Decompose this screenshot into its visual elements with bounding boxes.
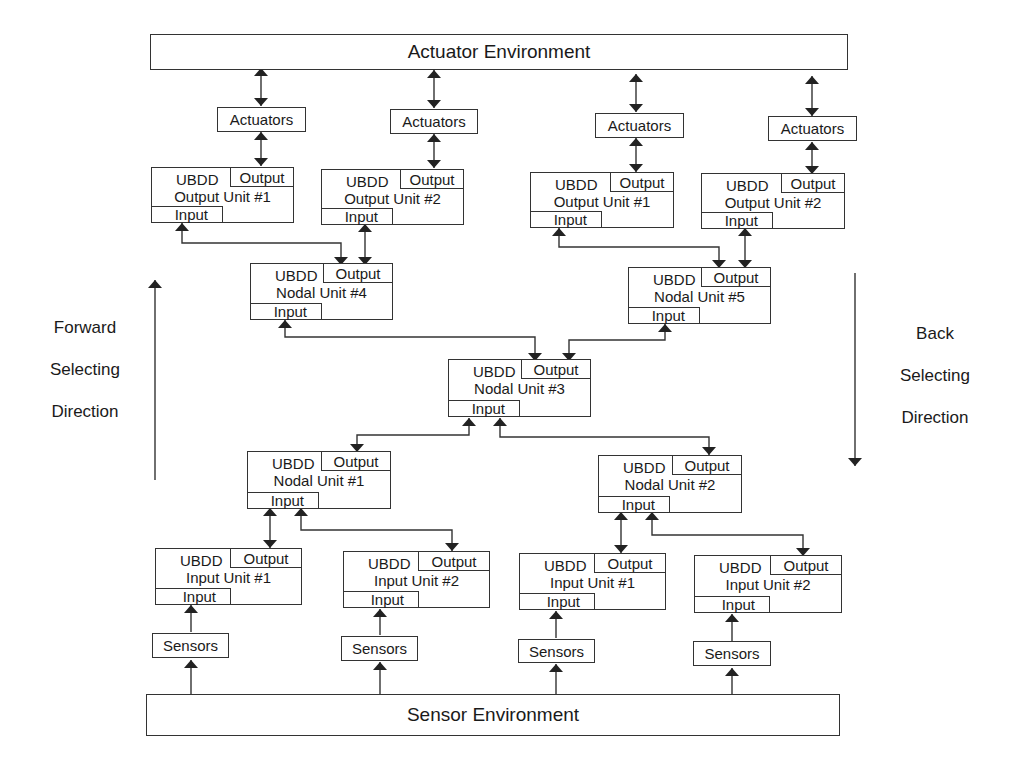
- ubdd-label: UBDD: [653, 271, 696, 289]
- output-port: Output: [672, 455, 742, 475]
- unit-name: Input Unit #2: [695, 576, 841, 594]
- output-unit-1-right: UBDD Output Output Unit #1 Input: [530, 172, 674, 228]
- output-port: Output: [323, 263, 393, 283]
- ubdd-label: UBDD: [623, 459, 666, 477]
- ubdd-label: UBDD: [368, 555, 411, 573]
- sensors-box-2: Sensors: [341, 636, 418, 661]
- input-port: Input: [250, 303, 322, 320]
- actuator-environment-label: Actuator Environment: [408, 41, 591, 63]
- unit-name: Output Unit #1: [531, 193, 673, 211]
- unit-name: Nodal Unit #4: [251, 284, 392, 302]
- forward-word: Forward: [30, 307, 140, 349]
- output-unit-1-left: UBDD Output Output Unit #1 Input: [151, 167, 294, 223]
- ubdd-label: UBDD: [272, 455, 315, 473]
- output-port: Output: [521, 359, 591, 379]
- input-port: Input: [701, 212, 773, 229]
- back-word: Back: [880, 313, 990, 355]
- unit-name: Output Unit #1: [152, 188, 293, 206]
- unit-name: Output Unit #2: [702, 194, 844, 212]
- actuators-label: Actuators: [781, 120, 844, 137]
- ubdd-label: UBDD: [275, 267, 318, 285]
- output-unit-2-left: UBDD Output Output Unit #2 Input: [321, 169, 464, 225]
- actuators-box-1: Actuators: [217, 107, 306, 132]
- sensor-environment-label: Sensor Environment: [407, 704, 579, 726]
- output-port: Output: [781, 173, 845, 193]
- sensors-box-4: Sensors: [693, 641, 771, 666]
- input-port: Input: [694, 596, 770, 613]
- nodal-unit-2: UBDD Output Nodal Unit #2 Input: [598, 455, 742, 513]
- output-port: Output: [594, 553, 666, 573]
- input-port: Input: [519, 593, 595, 610]
- actuators-label: Actuators: [608, 117, 671, 134]
- input-port: Input: [628, 307, 700, 324]
- output-port: Output: [701, 267, 771, 287]
- input-port: Input: [530, 211, 602, 228]
- input-port: Input: [151, 206, 223, 223]
- input-port: Input: [343, 591, 419, 608]
- output-port: Output: [230, 548, 302, 568]
- unit-name: Input Unit #1: [520, 574, 665, 592]
- output-port: Output: [400, 169, 464, 189]
- input-port: Input: [598, 496, 670, 513]
- input-unit-1-right: UBDD Output Input Unit #1 Input: [519, 553, 666, 610]
- forward-selecting-direction-label: Forward Selecting Direction: [30, 307, 140, 433]
- ubdd-label: UBDD: [473, 363, 516, 381]
- input-port: Input: [448, 400, 520, 417]
- actuators-box-3: Actuators: [595, 113, 684, 138]
- ubdd-label: UBDD: [180, 552, 223, 570]
- unit-name: Output Unit #2: [322, 190, 463, 208]
- unit-name: Nodal Unit #5: [629, 288, 770, 306]
- unit-name: Nodal Unit #1: [248, 472, 390, 490]
- sensors-box-1: Sensors: [152, 633, 229, 658]
- back-selecting-direction-label: Back Selecting Direction: [880, 313, 990, 439]
- actuators-box-4: Actuators: [768, 116, 857, 141]
- output-port: Output: [321, 451, 391, 471]
- actuators-box-2: Actuators: [390, 109, 478, 134]
- sensors-label: Sensors: [163, 637, 218, 654]
- ubdd-label: UBDD: [726, 177, 769, 195]
- selecting-word: Selecting: [30, 349, 140, 391]
- unit-name: Input Unit #2: [344, 572, 489, 590]
- ubdd-label: UBDD: [555, 176, 598, 194]
- input-unit-2-left: UBDD Output Input Unit #2 Input: [343, 551, 490, 608]
- actuators-label: Actuators: [402, 113, 465, 130]
- input-port: Input: [321, 208, 393, 225]
- nodal-unit-5: UBDD Output Nodal Unit #5 Input: [628, 267, 771, 324]
- direction-word: Direction: [880, 397, 990, 439]
- selecting-word: Selecting: [880, 355, 990, 397]
- ubdd-label: UBDD: [176, 171, 219, 189]
- sensors-box-3: Sensors: [518, 639, 595, 663]
- input-port: Input: [155, 588, 231, 605]
- nodal-unit-3: UBDD Output Nodal Unit #3 Input: [448, 359, 591, 417]
- unit-name: Nodal Unit #3: [449, 380, 590, 398]
- output-port: Output: [418, 551, 490, 571]
- actuators-label: Actuators: [230, 111, 293, 128]
- output-port: Output: [610, 172, 674, 192]
- sensors-label: Sensors: [704, 645, 759, 662]
- ubdd-label: UBDD: [544, 557, 587, 575]
- input-unit-1-left: UBDD Output Input Unit #1 Input: [155, 548, 302, 605]
- sensor-environment: Sensor Environment: [146, 694, 840, 736]
- unit-name: Nodal Unit #2: [599, 476, 741, 494]
- output-port: Output: [770, 555, 842, 575]
- sensors-label: Sensors: [529, 643, 584, 660]
- direction-word: Direction: [30, 391, 140, 433]
- output-port: Output: [230, 167, 294, 187]
- ubdd-label: UBDD: [719, 559, 762, 577]
- input-port: Input: [247, 492, 319, 509]
- unit-name: Input Unit #1: [156, 569, 301, 587]
- output-unit-2-right: UBDD Output Output Unit #2 Input: [701, 173, 845, 229]
- ubdd-label: UBDD: [346, 173, 389, 191]
- input-unit-2-right: UBDD Output Input Unit #2 Input: [694, 555, 842, 613]
- nodal-unit-4: UBDD Output Nodal Unit #4 Input: [250, 263, 393, 320]
- nodal-unit-1: UBDD Output Nodal Unit #1 Input: [247, 451, 391, 509]
- actuator-environment: Actuator Environment: [150, 34, 848, 70]
- sensors-label: Sensors: [352, 640, 407, 657]
